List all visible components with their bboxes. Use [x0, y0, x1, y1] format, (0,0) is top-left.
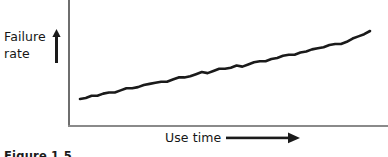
figure-container: Failure rate Use time Figure 1.5 — [0, 0, 388, 157]
data-series-failure-rate — [80, 31, 370, 99]
figure-caption: Figure 1.5 — [4, 149, 72, 157]
chart-plot-area — [0, 0, 388, 157]
